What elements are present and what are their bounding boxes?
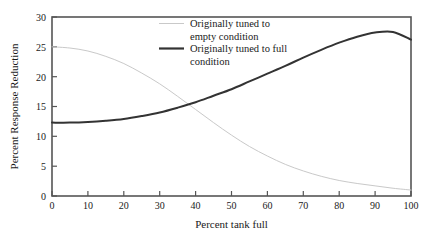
y-tick-label: 25 [36,42,46,53]
series-line-empty-condition [52,47,411,190]
legend-label-empty-line1: Originally tuned to [190,18,270,29]
x-tick-label: 100 [404,200,419,211]
y-tick-label: 15 [36,101,46,112]
x-axis-title: Percent tank full [195,218,268,230]
legend-label-empty-line2: empty condition [190,31,259,42]
x-tick-label: 30 [155,200,165,211]
x-tick-label: 50 [227,200,237,211]
y-tick-label: 10 [36,131,46,142]
data-series-group [52,31,411,190]
y-tick-label: 5 [41,161,46,172]
x-tick-label: 90 [370,200,380,211]
chart-svg: 0 5 10 15 20 25 30 0 10 20 30 [0,0,430,241]
y-tick-label: 0 [41,191,46,202]
y-tick-label: 30 [36,12,46,23]
x-tick-label: 60 [262,200,272,211]
x-tick-label: 10 [83,200,93,211]
chart-legend: Originally tuned to empty condition Orig… [159,18,287,67]
x-tick-label: 20 [119,200,129,211]
legend-label-full-line2: condition [190,56,230,67]
y-axis-tick-labels: 0 5 10 15 20 25 30 [36,12,46,202]
x-axis-tick-labels: 0 10 20 30 40 50 60 70 80 90 100 [50,200,419,211]
y-axis-title: Percent Response Reduction [8,43,20,169]
x-tick-label: 40 [191,200,201,211]
x-tick-label: 0 [50,200,55,211]
y-tick-label: 20 [36,72,46,83]
x-tick-label: 70 [298,200,308,211]
chart-figure: 0 5 10 15 20 25 30 0 10 20 30 [0,0,430,241]
legend-label-full-line1: Originally tuned to full [190,43,287,54]
x-tick-label: 80 [334,200,344,211]
